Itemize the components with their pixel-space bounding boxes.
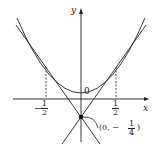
point-den: 4 (128, 129, 135, 137)
parabola-tangent-diagram: y x 0 − 1 2 1 2 (0, − 1 4 ) (0, 0, 153, 144)
point-marker (79, 115, 83, 119)
point-label-frac: 1 4 (128, 120, 135, 137)
x-axis-arrow-icon (144, 97, 149, 101)
point-label-prefix: (0, − (99, 124, 119, 132)
tick-neg-half: 1 2 (41, 100, 48, 117)
point-label-suffix: ) (137, 124, 140, 132)
tick-neg-half-den: 2 (41, 109, 48, 117)
origin-label: 0 (84, 87, 90, 96)
x-axis-label: x (143, 104, 148, 113)
tick-pos-half-den: 2 (112, 109, 119, 117)
y-axis-label: y (71, 6, 76, 15)
tick-pos-half: 1 2 (112, 100, 119, 117)
y-axis-arrow-icon (79, 8, 83, 14)
